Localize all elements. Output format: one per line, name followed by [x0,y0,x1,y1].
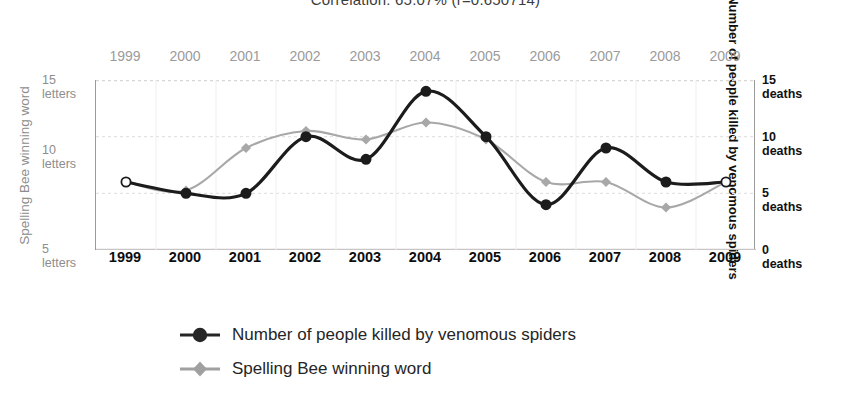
datapoint-spiders-2003 [361,155,370,164]
right-tick-5-value: 5 [762,187,802,201]
year-label-bottom-2001: 2001 [215,249,275,265]
year-label-bottom-2005: 2005 [455,249,515,265]
series-spiders [121,87,730,210]
datapoint-spiders-2001 [241,189,250,198]
year-label-bottom-2002: 2002 [275,249,335,265]
datapoint-spiders-2000 [181,189,190,198]
datapoint-spelling-bee-2006 [542,178,550,186]
datapoint-spiders-2008 [661,177,670,186]
year-label-top-2006: 2006 [515,48,575,64]
right-tick-15-unit: deaths [762,88,802,102]
right-tick-10-unit: deaths [762,145,802,159]
datapoint-spiders-2005 [481,132,490,141]
year-label-bottom-2008: 2008 [635,249,695,265]
chart-area: Spelling Bee winning word Number of peop… [0,0,851,300]
year-label-top-2003: 2003 [335,48,395,64]
year-label-bottom-2000: 2000 [155,249,215,265]
left-tick-5: 5 letters [42,243,90,270]
left-axis-title: Spelling Bee winning word [17,56,32,276]
year-label-top-2000: 2000 [155,48,215,64]
left-tick-10-unit: letters [42,158,90,172]
year-label-bottom-2004: 2004 [395,249,455,265]
right-tick-5-unit: deaths [762,201,802,215]
year-label-bottom-2007: 2007 [575,249,635,265]
legend-label-spelling-bee: Spelling Bee winning word [222,359,431,379]
left-tick-15-unit: letters [42,88,90,102]
year-label-top-2007: 2007 [575,48,635,64]
left-tick-15-value: 15 [42,74,90,88]
right-axis-ticks: 15 deaths 10 deaths 5 deaths 0 deaths [762,0,832,300]
plot-svg [96,80,756,250]
year-label-top-2008: 2008 [635,48,695,64]
left-tick-5-value: 5 [42,243,90,257]
datapoint-spiders-2004 [421,87,430,96]
year-label-bottom-2006: 2006 [515,249,575,265]
left-tick-5-unit: letters [42,257,90,271]
right-tick-10: 10 deaths [762,131,802,158]
right-tick-0-value: 0 [762,244,802,258]
right-tick-15: 15 deaths [762,74,802,101]
datapoint-spiders-2002 [301,132,310,141]
datapoint-spiders-2007 [601,143,610,152]
legend-marker-diamond-icon [178,359,222,379]
right-tick-10-value: 10 [762,131,802,145]
right-tick-0-unit: deaths [762,258,802,272]
datapoint-spelling-bee-2001 [242,144,250,152]
year-label-top-2005: 2005 [455,48,515,64]
year-label-bottom-1999: 1999 [95,249,155,265]
left-axis-ticks: 15 letters 10 letters 5 letters [40,0,90,300]
year-label-bottom-2003: 2003 [335,249,395,265]
year-label-top-2002: 2002 [275,48,335,64]
year-label-top-1999: 1999 [95,48,155,64]
plot-area [95,80,755,250]
datapoint-spiders-1999 [121,177,130,186]
year-label-top-2009: 2009 [695,48,755,64]
left-tick-10: 10 letters [42,144,90,171]
right-tick-5: 5 deaths [762,187,802,214]
datapoint-spelling-bee-2008 [662,204,670,212]
legend-item-spelling-bee[interactable]: Spelling Bee winning word [178,352,698,386]
year-label-top-2004: 2004 [395,48,455,64]
legend-item-spiders[interactable]: Number of people killed by venomous spid… [178,318,698,352]
right-tick-15-value: 15 [762,74,802,88]
legend-marker-circle-icon [178,325,222,345]
chart-legend: Number of people killed by venomous spid… [178,318,698,386]
left-tick-15: 15 letters [42,74,90,101]
datapoint-spiders-2009 [721,177,730,186]
datapoint-spelling-bee-2004 [422,119,430,127]
legend-label-spiders: Number of people killed by venomous spid… [222,325,576,345]
datapoint-spelling-bee-2007 [602,178,610,186]
year-label-bottom-2009: 2009 [695,249,755,265]
datapoint-spiders-2006 [541,200,550,209]
right-tick-0: 0 deaths [762,244,802,271]
year-label-top-2001: 2001 [215,48,275,64]
left-tick-10-value: 10 [42,144,90,158]
